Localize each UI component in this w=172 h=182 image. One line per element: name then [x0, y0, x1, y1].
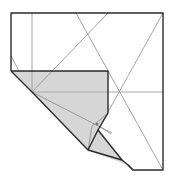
origami-diagram [0, 0, 172, 182]
crease-corner [11, 56, 19, 71]
pivot-marker [96, 123, 99, 126]
